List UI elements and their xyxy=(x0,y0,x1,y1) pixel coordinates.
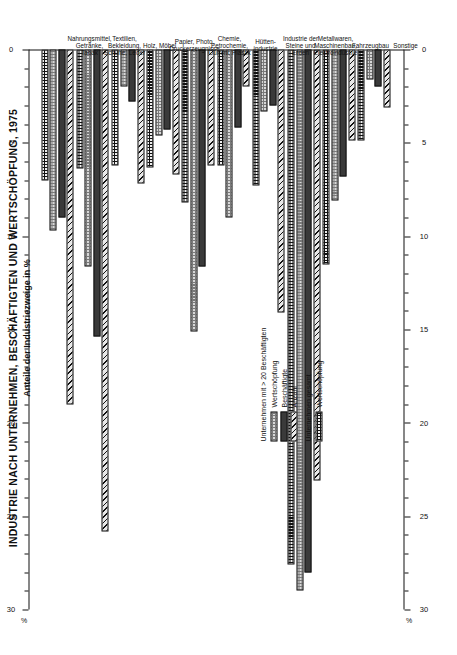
axis-tick xyxy=(404,49,410,50)
legend-label: Anzahl xyxy=(290,386,297,407)
axis-tick xyxy=(404,124,408,125)
axis-tick xyxy=(404,609,410,610)
axis-tick xyxy=(404,310,408,311)
axis-tick xyxy=(404,348,408,349)
category-label: Sonstige xyxy=(374,41,436,48)
axis-tick xyxy=(24,273,28,274)
axis-tick xyxy=(24,497,28,498)
axis-tick xyxy=(404,590,408,591)
axis-tick xyxy=(404,105,408,106)
axis-tick xyxy=(24,460,28,461)
axis-tick xyxy=(24,180,28,181)
axis-tick xyxy=(404,329,410,330)
axis-tick xyxy=(404,516,410,517)
axis-tick xyxy=(404,254,408,255)
axis-tick xyxy=(404,534,408,535)
axis-tick xyxy=(22,49,28,50)
bar-wert20 xyxy=(225,49,232,217)
axis-tick xyxy=(404,180,408,181)
axis-tick xyxy=(404,366,408,367)
axis-tick xyxy=(22,329,28,330)
bar-anzahl xyxy=(383,49,390,107)
legend-group2-header: Unternehmen gesamt xyxy=(303,231,312,441)
bar-wert20 xyxy=(190,49,197,331)
bar-besch xyxy=(198,49,205,266)
axis-tick xyxy=(404,460,408,461)
legend-item[interactable]: Wertschöpfung xyxy=(314,231,323,441)
legend-swatch-anzahl xyxy=(290,411,297,441)
axis-tick xyxy=(24,553,28,554)
axis-unit-top: % xyxy=(20,616,26,623)
bar-besch xyxy=(269,49,276,105)
bar-besch xyxy=(58,49,65,217)
axis-tick xyxy=(24,441,28,442)
axis-tick xyxy=(24,534,28,535)
bar-group xyxy=(41,49,75,609)
bar-wertges xyxy=(146,49,153,167)
legend-swatch-wert20 xyxy=(270,411,277,441)
axis-tick-label: 25 xyxy=(419,511,427,520)
axis-tick xyxy=(24,68,28,69)
legend-label: Beschäftigte xyxy=(280,368,287,407)
axis-tick xyxy=(404,422,410,423)
legend-item[interactable]: Beschäftigte xyxy=(279,231,288,441)
bar-besch xyxy=(339,49,346,176)
axis-tick xyxy=(24,478,28,479)
axis-tick xyxy=(24,105,28,106)
legend-item[interactable]: Anzahl xyxy=(289,231,298,441)
legend-label: Wertschöpfung xyxy=(315,360,322,407)
axis-tick xyxy=(404,292,408,293)
axis-tick xyxy=(404,572,408,573)
axis-tick xyxy=(22,609,28,610)
axis-tick xyxy=(24,404,28,405)
bar-wert20 xyxy=(84,49,91,266)
bar-group xyxy=(322,49,356,609)
axis-tick xyxy=(404,217,408,218)
bar-wertges xyxy=(181,49,188,202)
bar-anzahl xyxy=(207,49,214,165)
axis-tick xyxy=(404,142,410,143)
axis-tick xyxy=(24,254,28,255)
chart-legend: Unternehmen mit > 20 Beschäftigten Werts… xyxy=(258,231,324,441)
axis-tick xyxy=(404,273,408,274)
legend-swatch-besch xyxy=(280,411,287,441)
bar-besch xyxy=(93,49,100,336)
legend-label: Wertschöpfung xyxy=(270,360,277,407)
axis-tick-label: 25 xyxy=(6,511,14,520)
bar-group xyxy=(76,49,110,609)
axis-tick xyxy=(22,236,28,237)
chart-page: INDUSTRIE NACH UNTERNEHMEN, BESCHÄFTIGTE… xyxy=(0,0,457,655)
bar-wertges xyxy=(217,49,224,165)
bar-wertges xyxy=(41,49,48,180)
axis-tick-label: 5 xyxy=(421,138,425,147)
axis-tick xyxy=(404,553,408,554)
axis-tick xyxy=(22,142,28,143)
bar-wert20 xyxy=(155,49,162,135)
bar-wertges xyxy=(111,49,118,165)
bar-wert20 xyxy=(49,49,56,230)
plot-area: 302520151050 302520151050 % % Nahrungsmi… xyxy=(40,49,392,609)
axis-tick xyxy=(24,86,28,87)
axis-bottom: 302520151050 xyxy=(403,49,404,609)
bar-wert20 xyxy=(260,49,267,111)
axis-tick xyxy=(24,385,28,386)
axis-tick-label: 15 xyxy=(419,325,427,334)
bar-besch xyxy=(234,49,241,127)
bar-anzahl xyxy=(66,49,73,404)
bar-wertges xyxy=(76,49,83,168)
axis-tick xyxy=(24,217,28,218)
axis-tick-label: 10 xyxy=(419,231,427,240)
bar-group xyxy=(357,49,391,609)
legend-group2-items: Wertschöpfung xyxy=(314,231,323,441)
axis-tick xyxy=(24,124,28,125)
axis-tick xyxy=(404,441,408,442)
legend-item[interactable]: Wertschöpfung xyxy=(269,231,278,441)
axis-tick xyxy=(404,86,408,87)
axis-tick xyxy=(24,348,28,349)
axis-tick xyxy=(24,366,28,367)
bar-wertges xyxy=(357,49,364,140)
axis-unit-bottom: % xyxy=(405,616,411,623)
bar-wert20 xyxy=(331,49,338,200)
axis-tick xyxy=(24,161,28,162)
legend-group1-items: WertschöpfungBeschäftigteAnzahl xyxy=(269,231,298,441)
